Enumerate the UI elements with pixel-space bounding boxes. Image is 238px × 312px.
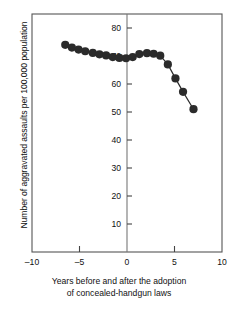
y-axis-tick-label: 30: [111, 163, 121, 173]
data-point-marker: [164, 60, 172, 68]
data-point-marker: [189, 105, 197, 113]
x-axis-caption-line-2: of concealed-handgun laws: [0, 288, 238, 300]
data-point-marker: [179, 88, 187, 96]
x-axis-tick-label: 5: [172, 257, 177, 267]
y-axis-tick-label: 20: [111, 191, 121, 201]
x-axis-tick-label: –5: [75, 257, 85, 267]
y-axis-tick-label: 60: [111, 79, 121, 89]
x-axis-tick-label: 10: [217, 257, 227, 267]
x-axis-tick-label: 0: [125, 257, 130, 267]
chart-figure: Number of aggravated assaults per 100,00…: [0, 0, 238, 312]
y-axis-tick-label: 10: [111, 219, 121, 229]
y-axis-label: Number of aggravated assaults per 100,00…: [19, 5, 29, 245]
data-point-marker: [171, 74, 179, 82]
x-axis-caption-line-1: Years before and after the adoption: [0, 276, 238, 288]
y-axis-tick-label: 40: [111, 135, 121, 145]
chart-plot-area: 1020304050607080–10–50510: [0, 0, 238, 312]
data-point-marker: [135, 50, 143, 58]
data-point-marker: [81, 47, 89, 55]
y-axis-tick-label: 80: [111, 23, 121, 33]
x-axis-tick-label: –10: [25, 257, 40, 267]
x-axis-caption: Years before and after the adoption of c…: [0, 276, 238, 299]
data-point-marker: [156, 52, 164, 60]
y-axis-tick-label: 50: [111, 107, 121, 117]
